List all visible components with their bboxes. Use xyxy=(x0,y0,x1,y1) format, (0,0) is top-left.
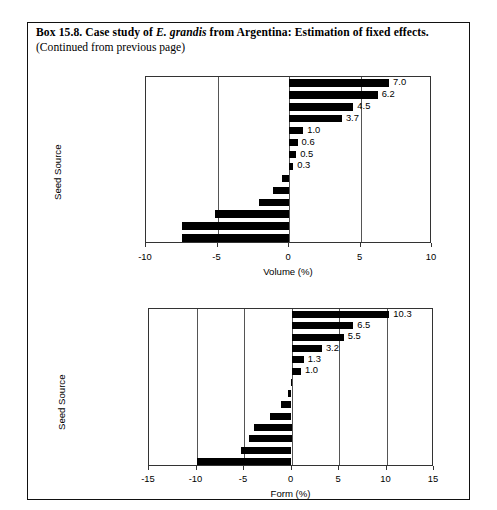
bar-value-label: 6.5 xyxy=(357,320,370,329)
y-axis-title: Seed Source xyxy=(56,375,67,430)
box-subtitle: (Continued from previous page) xyxy=(36,41,464,55)
x-tick-label: 10 xyxy=(411,252,451,261)
x-tick-mark xyxy=(431,243,432,247)
bar-value-label: 4.5 xyxy=(357,101,370,110)
x-tick-mark xyxy=(196,466,197,470)
bar xyxy=(182,222,289,229)
x-tick-mark xyxy=(217,243,218,247)
bar xyxy=(292,345,322,352)
x-tick-mark xyxy=(145,243,146,247)
bar-value-label: 7.0 xyxy=(393,77,406,86)
box-header: Box 15.8. Case study of E. grandis from … xyxy=(36,26,464,55)
x-tick-label: -5 xyxy=(197,252,237,261)
bar-value-label: 1.0 xyxy=(307,125,320,134)
bar xyxy=(289,79,389,86)
bar xyxy=(281,401,291,408)
x-tick-label: 5 xyxy=(340,252,380,261)
bar-value-label: 1.3 xyxy=(308,354,321,363)
bar xyxy=(259,199,289,206)
x-tick-label: -15 xyxy=(128,474,168,483)
bar xyxy=(182,234,289,241)
x-tick-label: 0 xyxy=(271,474,311,483)
bar-value-label: 5.5 xyxy=(348,331,361,340)
bar xyxy=(292,356,304,363)
gridline xyxy=(244,309,245,465)
x-tick-label: -10 xyxy=(176,474,216,483)
bar xyxy=(289,151,296,158)
x-axis-title: Volume (%) xyxy=(105,267,471,277)
bar-value-label: 10.3 xyxy=(393,309,411,318)
bar xyxy=(288,390,292,397)
bar-value-label: 0.3 xyxy=(297,160,310,169)
x-axis-title: Form (%) xyxy=(108,489,473,499)
box-title: Box 15.8. Case study of E. grandis from … xyxy=(36,26,464,40)
bar xyxy=(292,368,302,375)
x-tick-label: 0 xyxy=(268,252,308,261)
bar-value-label: 0.6 xyxy=(302,137,315,146)
bar xyxy=(289,163,293,170)
x-tick-label: -5 xyxy=(223,474,263,483)
x-tick-label: 15 xyxy=(413,474,453,483)
x-tick-label: 10 xyxy=(366,474,406,483)
bar xyxy=(292,322,354,329)
bar xyxy=(254,424,292,431)
bar-value-label: 6.2 xyxy=(382,89,395,98)
box-title-before: Box 15.8. Case study of xyxy=(36,26,156,39)
bar xyxy=(249,435,292,442)
x-tick-mark xyxy=(288,243,289,247)
gridline xyxy=(387,309,388,465)
bar-value-label: 3.7 xyxy=(346,113,359,122)
bar xyxy=(289,115,342,122)
gridline xyxy=(292,309,293,465)
bar xyxy=(289,127,303,134)
x-tick-mark xyxy=(148,466,149,470)
x-tick-mark xyxy=(386,466,387,470)
bar xyxy=(292,311,390,318)
x-tick-mark xyxy=(291,466,292,470)
gridline xyxy=(289,77,290,242)
bar xyxy=(282,175,289,182)
bar xyxy=(197,458,291,465)
x-tick-label: 5 xyxy=(318,474,358,483)
bar-value-label: 3.2 xyxy=(326,343,339,352)
bar xyxy=(289,103,353,110)
bar xyxy=(241,447,291,454)
bar xyxy=(215,210,289,217)
bar-value-label: 0.5 xyxy=(300,149,313,158)
gridline xyxy=(197,309,198,465)
bar xyxy=(291,379,293,386)
box-title-after: from Argentina: Estimation of fixed effe… xyxy=(207,26,429,39)
bar xyxy=(289,91,378,98)
gridline xyxy=(339,309,340,465)
bar-value-label: 1.0 xyxy=(305,365,318,374)
plot-area xyxy=(145,76,431,243)
x-tick-mark xyxy=(433,466,434,470)
x-tick-mark xyxy=(360,243,361,247)
x-tick-label: -10 xyxy=(125,252,165,261)
bar xyxy=(273,187,289,194)
bar xyxy=(270,413,292,420)
x-tick-mark xyxy=(338,466,339,470)
bar xyxy=(289,139,298,146)
x-tick-mark xyxy=(243,466,244,470)
box-title-species: E. grandis xyxy=(156,26,207,39)
y-axis-title: Seed Source xyxy=(52,145,63,200)
plot-area xyxy=(148,308,433,466)
bar xyxy=(292,334,344,341)
